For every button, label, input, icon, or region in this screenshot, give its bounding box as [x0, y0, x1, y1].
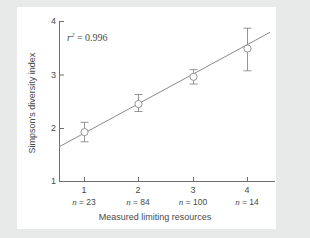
marker-circle-1 — [81, 129, 88, 136]
regression-line — [60, 32, 271, 146]
x-axis-ticks — [85, 177, 248, 182]
n-value-4: = 14 — [240, 197, 259, 207]
y-axis-ticks — [60, 22, 65, 182]
x-axis-title: Measured limiting resources — [0, 212, 310, 222]
y-axis-title: Simpson's diversity index — [27, 23, 37, 183]
r-squared-value: = 0.996 — [74, 32, 107, 43]
n-value-1: = 23 — [77, 197, 96, 207]
y-tick-label-2: 2 — [40, 123, 56, 133]
x-tick-label-4: 4 — [235, 185, 259, 195]
sample-size-label-4: n = 14 — [217, 197, 277, 207]
x-tick-label-3: 3 — [181, 185, 205, 195]
x-tick-label-2: 2 — [126, 185, 150, 195]
marker-circle-4 — [244, 45, 251, 52]
figure-container: 4 3 2 1 1 2 3 4 n = 23 n = 84 n = 100 n … — [0, 0, 310, 238]
x-tick-label-1: 1 — [72, 185, 96, 195]
y-tick-label-1: 1 — [40, 176, 56, 186]
data-point-4 — [244, 28, 252, 71]
n-value-3: = 100 — [183, 197, 207, 207]
marker-circle-2 — [135, 100, 142, 107]
r-squared-annotation: r2 = 0.996 — [67, 31, 108, 43]
sample-size-label-2: n = 84 — [108, 197, 168, 207]
n-value-2: = 84 — [131, 197, 150, 207]
axis-spines — [59, 21, 275, 182]
y-tick-label-3: 3 — [40, 70, 56, 80]
marker-circle-3 — [190, 73, 197, 80]
sample-size-label-3: n = 100 — [163, 197, 223, 207]
data-point-1 — [81, 122, 89, 142]
data-point-2 — [135, 95, 143, 112]
sample-size-label-1: n = 23 — [54, 197, 114, 207]
y-tick-label-4: 4 — [40, 16, 56, 26]
